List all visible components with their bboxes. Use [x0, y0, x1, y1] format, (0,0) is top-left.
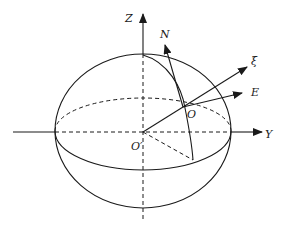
north-vector [165, 45, 183, 107]
center-o-prime-label: O′ [131, 140, 143, 153]
east-label: E [250, 86, 259, 99]
meridian-curve [143, 55, 193, 160]
y-axis-label: Y [265, 128, 274, 141]
z-axis-label: Z [124, 12, 133, 25]
equator-front [55, 131, 231, 170]
xi-label: ξ [251, 55, 258, 68]
north-label: N [159, 28, 170, 41]
point-o-label: O [187, 108, 196, 121]
radius-to-equator-dashed [143, 132, 193, 160]
xi-vector [183, 67, 247, 107]
east-vector [183, 93, 242, 107]
ellipsoid-diagram: Z Y N ξ E O O′ [0, 0, 284, 225]
radius-to-point-o [143, 107, 183, 132]
